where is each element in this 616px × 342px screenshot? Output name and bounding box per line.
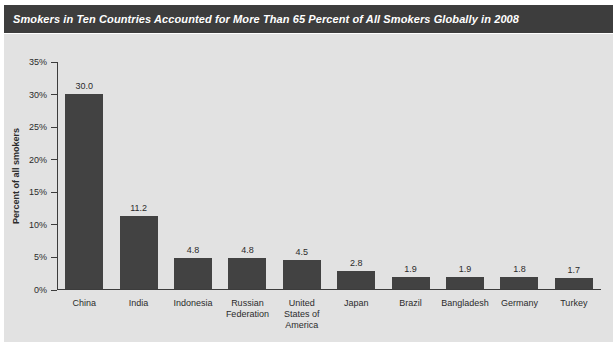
x-axis-label: Germany xyxy=(501,298,538,309)
y-tick-mark xyxy=(51,127,57,128)
bar-brazil xyxy=(392,277,430,289)
x-axis-label: Turkey xyxy=(560,298,587,309)
bar-value-label: 1.7 xyxy=(568,265,581,275)
y-tick-label: 0% xyxy=(34,285,47,295)
bar-value-label: 4.8 xyxy=(241,245,254,255)
bar-value-label: 4.5 xyxy=(296,247,309,257)
x-axis-label: Japan xyxy=(344,298,369,309)
x-axis-label: United States of America xyxy=(284,298,320,331)
y-tick-mark xyxy=(51,290,57,291)
y-axis-line xyxy=(57,62,58,290)
chart-title-bar: Smokers in Ten Countries Accounted for M… xyxy=(4,5,613,33)
y-tick-mark xyxy=(51,224,57,225)
bar-united xyxy=(283,260,321,289)
x-axis-label: Bangladesh xyxy=(441,298,489,309)
y-tick-label: 30% xyxy=(29,90,47,100)
y-tick-label: 5% xyxy=(34,252,47,262)
bar-bangladesh xyxy=(446,277,484,289)
y-tick-label: 10% xyxy=(29,220,47,230)
chart-panel: Percent of all smokers 0%5%10%15%20%25%3… xyxy=(4,34,613,342)
x-axis-label: China xyxy=(72,298,96,309)
panel-frame: Smokers in Ten Countries Accounted for M… xyxy=(4,5,613,342)
bar-value-label: 2.8 xyxy=(350,258,363,268)
bar-value-label: 1.8 xyxy=(513,264,526,274)
bar-turkey xyxy=(555,278,593,289)
bar-germany xyxy=(500,277,538,289)
y-tick-label: 35% xyxy=(29,57,47,67)
x-axis-label: Brazil xyxy=(399,298,422,309)
plot-area: Percent of all smokers 0%5%10%15%20%25%3… xyxy=(57,62,601,290)
y-tick-mark xyxy=(51,192,57,193)
y-tick-mark xyxy=(51,159,57,160)
bar-russian xyxy=(228,258,266,289)
y-tick-label: 20% xyxy=(29,155,47,165)
bar-value-label: 11.2 xyxy=(130,203,147,213)
bar-china xyxy=(65,94,103,289)
x-axis-line xyxy=(57,289,601,290)
x-axis-label: India xyxy=(129,298,149,309)
bar-value-label: 30.0 xyxy=(75,81,93,91)
y-axis-title: Percent of all smokers xyxy=(11,128,21,224)
bar-japan xyxy=(337,271,375,289)
chart-title: Smokers in Ten Countries Accounted for M… xyxy=(13,13,519,25)
bar-indonesia xyxy=(174,258,212,289)
y-tick-label: 25% xyxy=(29,122,47,132)
x-axis-label: Indonesia xyxy=(173,298,212,309)
bar-value-label: 1.9 xyxy=(404,264,417,274)
y-tick-mark xyxy=(51,62,57,63)
y-tick-mark xyxy=(51,94,57,95)
bar-value-label: 1.9 xyxy=(459,264,472,274)
bar-india xyxy=(120,216,158,289)
y-tick-label: 15% xyxy=(29,187,47,197)
x-axis-label: Russian Federation xyxy=(226,298,269,320)
y-tick-mark xyxy=(51,257,57,258)
figure: Smokers in Ten Countries Accounted for M… xyxy=(0,0,616,342)
bar-value-label: 4.8 xyxy=(187,245,200,255)
